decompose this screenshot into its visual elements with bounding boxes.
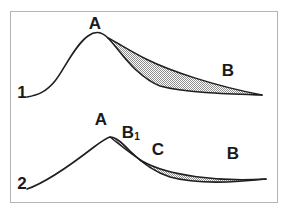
curve-2-index-label: 2 — [17, 174, 26, 193]
curve-2-branch-path — [110, 137, 266, 180]
label-b1-lower-base: B — [122, 123, 134, 142]
label-b-upper: B — [222, 61, 234, 80]
label-a-upper: A — [89, 14, 101, 33]
shaded-lens-upper — [108, 38, 262, 95]
label-a-lower: A — [95, 110, 107, 129]
label-c-lower: C — [152, 140, 164, 159]
label-b1-lower-subscript: 1 — [134, 131, 140, 142]
figure-border — [11, 12, 278, 203]
curve-1-group: 1 A B — [17, 14, 262, 102]
curve-figure: 1 A B 2 A B 1 C B — [0, 0, 290, 215]
curve-2-group: 2 A B 1 C B — [17, 110, 266, 193]
label-b1-lower: B 1 — [122, 123, 140, 142]
curve-1-index-label: 1 — [17, 83, 26, 102]
label-b-lower: B — [227, 144, 239, 163]
figure-container: 1 A B 2 A B 1 C B — [0, 0, 290, 215]
